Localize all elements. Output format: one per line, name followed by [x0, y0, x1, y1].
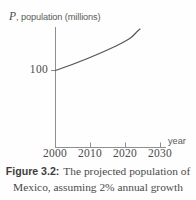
- figure-container: P, population (millions) 100 2000 2010 2…: [0, 0, 196, 200]
- y-tick-label-100: 100: [30, 63, 48, 75]
- x-tick-label-2000: 2000: [43, 147, 67, 159]
- caption-figure-number: Figure 3.2:: [6, 165, 60, 177]
- caption-text-line-1: The projected population of: [63, 165, 190, 177]
- x-axis-label: year: [168, 136, 186, 146]
- x-tick-label-2030: 2030: [148, 147, 172, 159]
- y-axis-symbol: P: [9, 10, 16, 22]
- caption-text-line-2: Mexico, assuming 2% annual growth: [13, 181, 183, 193]
- caption-line-1: Figure 3.2: The projected population of: [0, 163, 196, 179]
- figure-caption: Figure 3.2: The projected population of …: [0, 163, 196, 194]
- x-tick-label-2010: 2010: [78, 147, 102, 159]
- caption-line-2: Mexico, assuming 2% annual growth: [0, 179, 196, 195]
- y-axis-units: , population (millions): [16, 12, 101, 22]
- population-curve: [56, 29, 141, 71]
- chart-plot-area: P, population (millions) 100 2000 2010 2…: [0, 0, 196, 160]
- x-tick-label-2020: 2020: [113, 147, 137, 159]
- y-axis-title: P, population (millions): [9, 7, 101, 23]
- chart-svg: [0, 0, 196, 160]
